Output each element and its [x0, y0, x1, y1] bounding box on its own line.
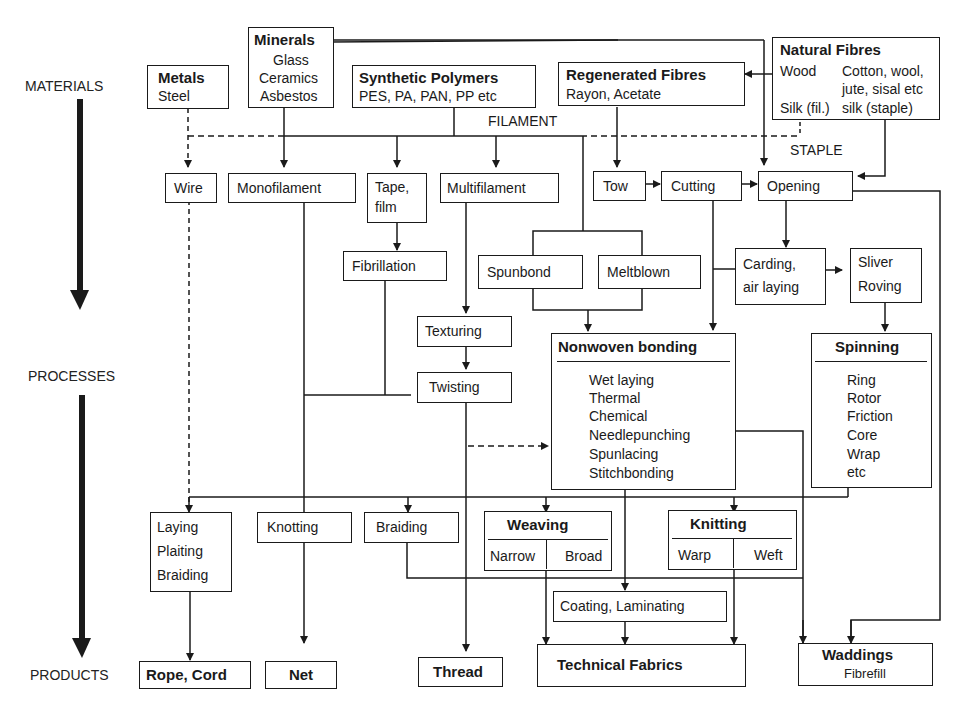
nonwoven-item: Thermal: [589, 389, 640, 407]
laying-plaiting-braiding-box: Laying Plaiting Braiding: [150, 512, 232, 592]
braiding-label: Braiding: [157, 566, 208, 584]
roving-label: Roving: [858, 277, 902, 295]
metals-box: Metals Steel: [147, 65, 229, 109]
weaving-split: [546, 539, 547, 569]
tape-label: Tape,: [375, 178, 409, 196]
knitting-divider: [672, 538, 792, 539]
coating-label: Coating, Laminating: [560, 597, 685, 615]
thread-box: Thread: [418, 657, 503, 687]
spunbond-label: Spunbond: [487, 263, 551, 281]
wire-label: Wire: [174, 179, 203, 197]
weaving-narrow: Narrow: [490, 547, 535, 565]
natural-cotton: Cotton, wool,: [842, 62, 924, 80]
nonwoven-item: Wet laying: [589, 371, 654, 389]
laying-label: Laying: [157, 518, 198, 536]
minerals-asbestos: Asbestos: [260, 87, 318, 105]
metals-items: Steel: [158, 87, 190, 105]
sliver-roving-box: Sliver Roving: [850, 248, 922, 303]
natural-fibres-box: Natural Fibres Wood Cotton, wool, jute, …: [772, 37, 940, 120]
knotting-label: Knotting: [267, 518, 318, 536]
nonwoven-bonding-box: Nonwoven bonding Wet laying Thermal Chem…: [551, 333, 736, 490]
tow-label: Tow: [603, 177, 628, 195]
nonwoven-divider: [557, 361, 730, 362]
waddings-box: Waddings Fibrefill: [798, 643, 933, 686]
carding-label: Carding,: [743, 255, 796, 273]
spinning-box: Spinning Ring Rotor Friction Core Wrap e…: [811, 333, 932, 488]
stage-materials: MATERIALS: [25, 78, 103, 94]
weaving-title: Weaving: [507, 516, 568, 534]
minerals-box: Minerals Glass Ceramics Asbestos: [248, 27, 334, 108]
braiding-process-label: Braiding: [376, 518, 427, 536]
metals-title: Metals: [158, 69, 205, 87]
multifilament-box: Multifilament: [440, 173, 559, 203]
natural-wood: Wood: [780, 62, 816, 80]
technical-fabrics-label: Technical Fabrics: [557, 656, 683, 674]
filament-label: FILAMENT: [488, 113, 557, 129]
minerals-glass: Glass: [273, 51, 309, 69]
natural-silk-staple: silk (staple): [842, 99, 913, 117]
thread-label: Thread: [433, 663, 483, 681]
waddings-sub: Fibrefill: [844, 665, 886, 683]
meltblown-box: Meltblown: [598, 255, 701, 289]
nonwoven-item: Spunlacing: [589, 445, 658, 463]
stage-products: PRODUCTS: [30, 667, 109, 683]
tape-film-box: Tape, film: [367, 173, 427, 223]
stage-processes: PROCESSES: [28, 368, 115, 384]
fibrillation-box: Fibrillation: [343, 251, 447, 281]
regenerated-fibres-box: Regenerated Fibres Rayon, Acetate: [558, 62, 745, 106]
twisting-label: Twisting: [429, 378, 480, 396]
monofilament-box: Monofilament: [228, 173, 356, 203]
spinning-item: Wrap: [847, 445, 880, 463]
synthetic-items: PES, PA, PAN, PP etc: [359, 87, 497, 105]
fibrillation-label: Fibrillation: [352, 257, 416, 275]
spinning-item: Core: [847, 426, 877, 444]
texturing-label: Texturing: [425, 322, 482, 340]
staple-label: STAPLE: [790, 142, 843, 158]
nonwoven-title: Nonwoven bonding: [558, 338, 697, 356]
natural-jute: jute, sisal etc: [842, 80, 923, 98]
coating-laminating-box: Coating, Laminating: [553, 591, 727, 622]
net-label: Net: [266, 666, 336, 684]
natural-title: Natural Fibres: [780, 41, 881, 59]
nonwoven-item: Stitchbonding: [589, 464, 674, 482]
knitting-title: Knitting: [690, 515, 747, 533]
spinning-item: Rotor: [847, 389, 881, 407]
waddings-title: Waddings: [822, 646, 893, 664]
multifilament-label: Multifilament: [447, 179, 526, 197]
opening-label: Opening: [767, 177, 820, 195]
monofilament-label: Monofilament: [237, 179, 321, 197]
knitting-split: [733, 538, 734, 568]
knitting-weft: Weft: [754, 546, 783, 564]
synthetic-title: Synthetic Polymers: [359, 69, 498, 87]
meltblown-label: Meltblown: [607, 263, 670, 281]
texturing-box: Texturing: [417, 316, 512, 347]
knitting-box: Knitting Warp Weft: [668, 510, 797, 570]
sliver-label: Sliver: [858, 253, 893, 271]
spinning-title: Spinning: [835, 338, 899, 356]
net-box: Net: [265, 661, 337, 689]
opening-box: Opening: [758, 171, 853, 201]
weaving-divider: [488, 539, 608, 540]
tow-box: Tow: [593, 171, 646, 201]
weaving-broad: Broad: [565, 547, 602, 565]
minerals-title: Minerals: [254, 31, 315, 49]
spinning-item: Friction: [847, 407, 893, 425]
nonwoven-item: Chemical: [589, 407, 647, 425]
synthetic-polymers-box: Synthetic Polymers PES, PA, PAN, PP etc: [352, 65, 536, 108]
braiding-box: Braiding: [364, 512, 459, 543]
nonwoven-item: Needlepunching: [589, 426, 690, 444]
rope-cord-label: Rope, Cord: [146, 666, 227, 684]
minerals-ceramics: Ceramics: [259, 69, 318, 87]
plaiting-label: Plaiting: [157, 542, 203, 560]
spinning-divider: [815, 361, 927, 362]
film-label: film: [375, 198, 397, 216]
air-laying-label: air laying: [743, 278, 799, 296]
natural-silk-filament: Silk (fil.): [780, 99, 830, 117]
rope-cord-box: Rope, Cord: [139, 661, 251, 689]
spinning-item: etc: [847, 463, 866, 481]
weaving-box: Weaving Narrow Broad: [484, 511, 612, 571]
spinning-item: Ring: [847, 371, 876, 389]
twisting-box: Twisting: [417, 372, 512, 403]
regenerated-title: Regenerated Fibres: [566, 66, 706, 84]
knitting-warp: Warp: [678, 546, 711, 564]
